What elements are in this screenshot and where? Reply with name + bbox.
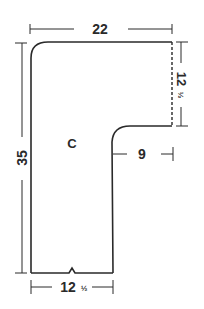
inner-step-label: 9 (138, 146, 146, 162)
bottom-width-dimension: 12 ½ (31, 279, 113, 295)
right-height-whole: 12 (174, 72, 189, 86)
piece-label: C (67, 136, 77, 151)
top-width-label: 22 (92, 21, 108, 37)
bottom-width-fraction: ½ (81, 284, 88, 293)
bottom-edge-with-notch (31, 268, 113, 273)
top-width-dimension: 22 (30, 21, 172, 37)
left-height-label: 35 (14, 150, 30, 166)
schematic-diagram: 22 35 12 ½ 9 12 ½ (0, 0, 204, 309)
pattern-piece-outline (31, 42, 172, 273)
bottom-width-whole: 12 (60, 279, 76, 295)
right-height-fraction: ½ (176, 92, 185, 99)
right-height-dimension: 12 ½ (174, 42, 189, 126)
inner-step-dimension: 9 (113, 146, 173, 162)
left-height-dimension: 35 (14, 43, 30, 273)
